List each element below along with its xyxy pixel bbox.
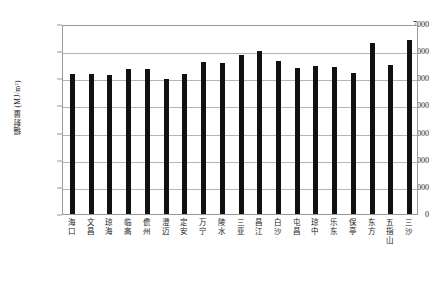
bar-chart-figure: 辐射量 (MJ/m²) 7000600050004000300020001000… (0, 0, 434, 283)
bar (407, 40, 412, 214)
bar (145, 69, 150, 214)
bar (107, 75, 112, 214)
bar (295, 68, 300, 214)
bar (220, 63, 225, 214)
gridline (63, 53, 417, 54)
y-axis-title-text: 辐射量 (MJ/m²) (14, 80, 22, 135)
x-axis-tick-label-char: 三 (398, 218, 420, 227)
bar (89, 74, 94, 214)
bar (351, 73, 356, 214)
bar (370, 43, 375, 214)
bar (276, 61, 281, 214)
bar (313, 66, 318, 214)
bar (332, 67, 337, 214)
bar (388, 65, 393, 214)
bar (239, 55, 244, 214)
bar (70, 74, 75, 214)
plot-area (62, 25, 418, 215)
bar (257, 51, 262, 214)
y-axis-title: 辐射量 (MJ/m²) (8, 0, 28, 215)
bar (126, 69, 131, 214)
x-axis-tick-label-char: 沙 (398, 227, 420, 236)
bar (182, 74, 187, 214)
bar (201, 62, 206, 214)
bar (164, 79, 169, 214)
x-axis-tick-label: 三沙 (398, 218, 420, 236)
x-axis-tick-label-char: 山 (379, 236, 401, 245)
